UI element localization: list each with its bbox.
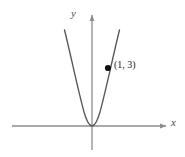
point-marker-1-3 xyxy=(105,65,111,71)
graph-canvas xyxy=(0,0,185,157)
point-coordinate-label: (1, 3) xyxy=(114,60,136,70)
parabola-figure: y x (1, 3) xyxy=(0,0,185,157)
y-axis-label: y xyxy=(71,8,76,19)
x-axis-label: x xyxy=(171,117,176,128)
